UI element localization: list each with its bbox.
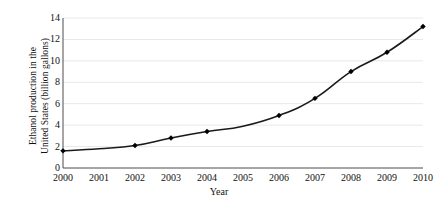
x-axis-title-label: Year [210,186,228,198]
axis-lines [63,18,423,168]
y-tick-label: 14 [40,13,60,23]
x-tick-label: 2002 [115,172,155,184]
gridlines [63,18,423,147]
y-tick-label: 10 [40,56,60,66]
x-tick-label: 2003 [151,172,191,184]
y-tick-label: 2 [40,142,60,152]
y-tick-label: 12 [40,34,60,44]
x-tick-label: 2005 [223,172,263,184]
x-tick-label: 2004 [187,172,227,184]
x-tick-label: 2009 [367,172,407,184]
plot-area [63,18,423,168]
data-point-marker [168,135,173,140]
series-markers [60,24,425,154]
series-line [63,27,423,151]
x-axis-title: Year [0,186,448,198]
data-point-marker [60,148,65,153]
data-point-marker [276,113,281,118]
x-tick-label: 2000 [43,172,83,184]
x-axis-tick-labels: 2000200120022003200420052006200720082009… [0,172,448,186]
y-tick-label: 6 [40,99,60,109]
y-tick-label: 8 [40,77,60,87]
y-tick-label: 4 [40,120,60,130]
ethanol-production-line-chart: Ethanol production in the United States … [0,0,448,213]
chart-svg [63,18,423,168]
data-point-marker [132,143,137,148]
x-tick-label: 2010 [403,172,443,184]
x-tick-label: 2006 [259,172,299,184]
x-tick-label: 2007 [295,172,335,184]
x-tick-label: 2008 [331,172,371,184]
x-tick-label: 2001 [79,172,119,184]
data-point-marker [204,129,209,134]
